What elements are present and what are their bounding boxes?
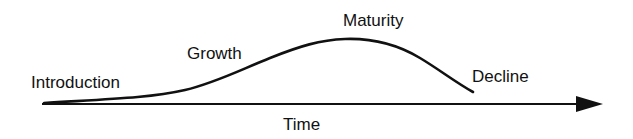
- time-axis-arrowhead-icon: [576, 96, 603, 112]
- stage-label-growth: Growth: [187, 45, 242, 62]
- axis-label-time: Time: [283, 116, 320, 133]
- stage-label-maturity: Maturity: [343, 12, 403, 29]
- product-life-cycle-diagram: Introduction Growth Maturity Decline Tim…: [0, 0, 633, 139]
- life-cycle-curve: [44, 39, 473, 103]
- stage-label-decline: Decline: [472, 68, 529, 85]
- stage-label-introduction: Introduction: [31, 74, 120, 91]
